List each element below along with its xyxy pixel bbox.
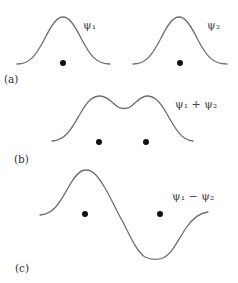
- psi2-label: ψ₂: [207, 19, 220, 32]
- panel-b: ψ₁ + ψ₂ (b): [14, 96, 217, 165]
- nucleus-2-dot: [157, 211, 163, 217]
- psi1-minus-psi2-curve: [40, 170, 208, 259]
- psi1-curve: [17, 17, 110, 64]
- nucleus-2-dot: [143, 139, 149, 145]
- nucleus-1-dot: [60, 60, 66, 66]
- psi1-plus-psi2-label: ψ₁ + ψ₂: [175, 98, 217, 111]
- panel-c-label: (c): [15, 262, 29, 274]
- nucleus-1-dot: [96, 139, 102, 145]
- nucleus-1-dot: [82, 211, 88, 217]
- wavefunction-diagram: ψ₁ ψ₂ (a) ψ₁ + ψ₂ (b) ψ₁ − ψ₂ (c): [0, 0, 238, 283]
- nucleus-2-dot: [177, 60, 183, 66]
- panel-b-label: (b): [14, 153, 29, 165]
- panel-c: ψ₁ − ψ₂ (c): [15, 170, 214, 274]
- panel-a-label: (a): [4, 73, 18, 85]
- psi1-plus-psi2-curve: [52, 96, 193, 141]
- psi1-minus-psi2-label: ψ₁ − ψ₂: [172, 190, 214, 203]
- psi1-label: ψ₁: [83, 19, 96, 32]
- panel-a: ψ₁ ψ₂ (a): [4, 17, 227, 85]
